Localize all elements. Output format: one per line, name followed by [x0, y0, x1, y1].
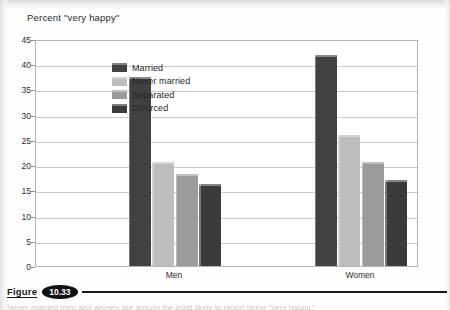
y-axis-tick-label: 40 [5, 60, 31, 70]
figure-caption-text: Never-married men and women are among th… [7, 303, 443, 310]
y-axis-tick-label: 20 [5, 161, 31, 171]
legend-swatch-highlight [112, 77, 127, 79]
bar-face [152, 162, 174, 266]
bar-face [315, 55, 337, 266]
figure-rule [82, 291, 447, 293]
legend-item-divorced: Divorced [112, 103, 190, 114]
legend-swatch-highlight [112, 90, 127, 92]
figure-caption: Figure 10.33 [7, 285, 447, 299]
legend-swatch-icon [112, 104, 127, 113]
legend-swatch-highlight [112, 63, 127, 65]
chart-legend: MarriedNever marriedSeparatedDivorced [112, 62, 190, 114]
legend-item-separated: Separated [112, 89, 190, 100]
legend-label: Divorced [132, 103, 168, 113]
bar-face [176, 174, 198, 266]
bar-face [362, 162, 384, 266]
legend-swatch-icon [112, 63, 127, 72]
bar-top-highlight [152, 162, 174, 164]
legend-swatch-highlight [112, 104, 127, 106]
gridline [36, 117, 417, 118]
bar-married-women [315, 55, 337, 266]
scan-shadow-top [0, 0, 450, 9]
legend-swatch-icon [112, 77, 127, 86]
legend-item-never-married: Never married [112, 76, 190, 87]
chart-title: Percent "very happy" [27, 12, 120, 23]
x-axis-label-women: Women [345, 270, 374, 280]
bar-face [199, 184, 221, 266]
bar-top-highlight [338, 135, 360, 137]
bar-left-highlight [315, 55, 317, 266]
y-axis-tick-label: 0 [5, 262, 31, 272]
y-axis-tick-label: 45 [5, 35, 31, 45]
gridline [36, 91, 417, 92]
y-axis-tick-mark [30, 267, 35, 268]
y-axis-tick-label: 15 [5, 186, 31, 196]
bar-left-highlight [385, 180, 387, 266]
legend-label: Married [132, 63, 163, 73]
bar-never-married-men [152, 162, 174, 266]
bar-top-highlight [199, 184, 221, 186]
bar-left-highlight [152, 162, 154, 266]
bar-top-highlight [315, 55, 337, 57]
bar-top-highlight [176, 174, 198, 176]
y-axis-tick-label: 35 [5, 85, 31, 95]
bar-left-highlight [338, 135, 340, 266]
bar-face [338, 135, 360, 266]
legend-swatch-icon [112, 90, 127, 99]
bar-separated-women [362, 162, 384, 266]
gridline [36, 66, 417, 67]
bar-never-married-women [338, 135, 360, 266]
x-axis-label-men: Men [166, 270, 183, 280]
legend-label: Separated [132, 90, 174, 100]
bar-divorced-women [385, 180, 407, 266]
bar-separated-men [176, 174, 198, 266]
y-axis-tick-label: 25 [5, 136, 31, 146]
figure-number-badge: 10.33 [42, 285, 77, 299]
y-axis-tick-label: 30 [5, 111, 31, 121]
bar-top-highlight [362, 162, 384, 164]
bar-divorced-men [199, 184, 221, 266]
bar-left-highlight [362, 162, 364, 266]
bar-left-highlight [199, 184, 201, 266]
y-axis-tick-label: 5 [5, 237, 31, 247]
figure-page: Percent "very happy" 051015202530354045 … [0, 0, 450, 310]
bar-left-highlight [176, 174, 178, 266]
plot-area [35, 40, 418, 267]
bar-top-highlight [385, 180, 407, 182]
legend-item-married: Married [112, 62, 190, 73]
scan-shadow-right [445, 0, 450, 310]
bar-face [385, 180, 407, 266]
figure-word-label: Figure [7, 286, 37, 299]
y-axis-tick-label: 10 [5, 212, 31, 222]
legend-label: Never married [132, 76, 190, 86]
